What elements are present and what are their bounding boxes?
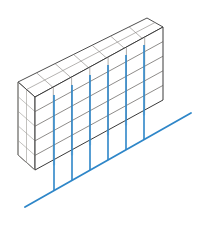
isometric-diagram-root [0, 0, 199, 230]
isometric-wall-diagram [0, 0, 199, 230]
